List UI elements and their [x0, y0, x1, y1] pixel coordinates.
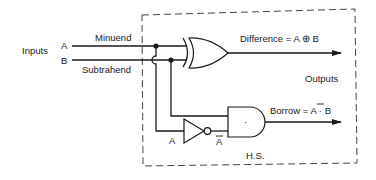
junction-dot-a: [153, 43, 158, 48]
difference-label: Difference = A ⊕ B: [240, 33, 319, 44]
wire-b-branch: [171, 60, 228, 116]
outputs-label: Outputs: [305, 73, 339, 84]
input-b-label: B: [61, 55, 67, 66]
wire-a-branch: [152, 46, 184, 131]
half-subtractor-label: H.S.: [246, 150, 264, 161]
xor-gate: [183, 38, 228, 68]
not-output-label: A: [216, 136, 223, 147]
input-a-label: A: [61, 40, 68, 51]
minuend-label: Minuend: [95, 32, 131, 43]
inputs-label: Inputs: [22, 45, 48, 56]
borrow-label: Borrow = A · B: [270, 105, 331, 116]
subtrahend-label: Subtrahend: [82, 64, 131, 75]
half-subtractor-diagram: Inputs A B Minuend Subtrahend Difference…: [0, 0, 376, 180]
junction-dot-b: [168, 57, 173, 62]
borrow-prefix: Borrow =: [270, 105, 310, 116]
not-input-label: A: [169, 135, 176, 146]
borrow-suffix: · B: [316, 105, 331, 116]
and-symbol: ·: [244, 116, 247, 127]
not-gate: [184, 119, 211, 143]
